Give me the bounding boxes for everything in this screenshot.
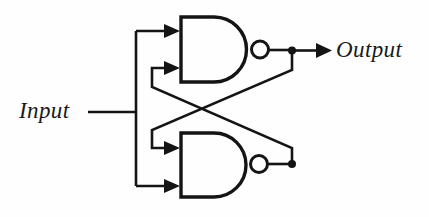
arrow-head-output (316, 43, 332, 58)
nand-gate-top-body (181, 17, 247, 82)
nand-gate-bottom-inversion-bubble (251, 156, 268, 173)
arrow-head-top-gate-input-2 (164, 61, 180, 75)
nand-gate-top-inversion-bubble (252, 41, 269, 58)
arrow-head-top-gate-input-1 (164, 24, 180, 38)
circuit-diagram: Input Output (0, 0, 429, 217)
output-label: Output (336, 38, 402, 61)
input-label: Input (19, 99, 70, 122)
arrow-head-bottom-gate-input-2 (164, 179, 180, 193)
nand-gate-bottom-body (181, 133, 246, 197)
arrow-head-bottom-gate-input-1 (164, 141, 180, 155)
junction-dot-bottom-output (288, 160, 296, 168)
